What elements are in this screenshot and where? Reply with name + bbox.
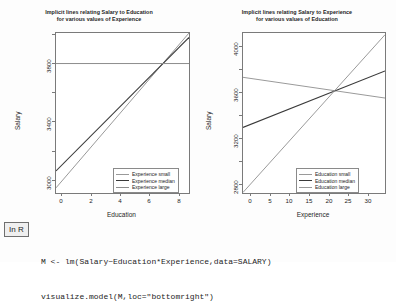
- series-line-experience-median: [56, 37, 189, 171]
- y-tick-label-right-3: 4000: [232, 42, 239, 56]
- x-tick-label-right-2: 10: [286, 197, 293, 204]
- series-line-education-small: [243, 77, 385, 98]
- y-tick-label-right-2: 3600: [232, 88, 239, 102]
- series-line-education-median: [243, 71, 385, 127]
- x-tick-label-left-0: 0: [59, 197, 62, 204]
- chart-title-left-line1: Implicit lines relating Salary to Educat…: [0, 9, 198, 16]
- x-tick-label-left-4: 8: [177, 197, 180, 204]
- y-tick-label-left-0: 3000: [45, 176, 52, 190]
- x-tick-label-left-3: 6: [147, 197, 150, 204]
- legend-item-experience-small: Experience small: [116, 171, 175, 177]
- legend-swatch-icon-5: [299, 187, 312, 188]
- x-tick-label-left-1: 2: [89, 197, 92, 204]
- legend-label-1: Experience median: [132, 178, 175, 184]
- y-tick-label-right-0: 2800: [232, 180, 239, 194]
- code-block: M <- lm(Salary~Education*Experience,data…: [41, 233, 271, 305]
- legend-label-5: Education large: [315, 184, 350, 190]
- legend-swatch-icon-1: [116, 180, 129, 181]
- chart-title-right: Implicit lines relating Salary to Experi…: [198, 9, 396, 23]
- chart-title-left-line2: for various values of Experience: [0, 16, 198, 23]
- y-axis-label-right: Salary: [205, 112, 212, 130]
- legend-swatch-icon-4: [299, 180, 312, 181]
- y-axis-label-left: Salary: [14, 112, 21, 130]
- legend-swatch-icon-0: [116, 174, 129, 175]
- legend-item-education-small: Education small: [299, 171, 355, 177]
- chart-title-right-line2: for various values of Education: [198, 16, 396, 23]
- chart-title-left: Implicit lines relating Salary to Educat…: [0, 9, 198, 23]
- legend-label-3: Education small: [315, 171, 350, 177]
- y-tick-label-right-1: 3200: [232, 134, 239, 148]
- x-axis-label-right: Experience: [242, 211, 384, 218]
- code-line-0: M <- lm(Salary~Education*Experience,data…: [41, 256, 271, 268]
- legend-item-education-median: Education median: [299, 178, 355, 184]
- legend-label-2: Experience large: [132, 184, 170, 190]
- y-tick-label-left-2: 3800: [45, 59, 52, 73]
- x-tick-label-right-5: 25: [345, 197, 352, 204]
- legend-item-experience-large: Experience large: [116, 184, 175, 190]
- chart-panel-education: Implicit lines relating Salary to Educat…: [0, 0, 198, 228]
- legend-label-0: Experience small: [132, 171, 170, 177]
- chart-title-right-line1: Implicit lines relating Salary to Experi…: [198, 9, 396, 16]
- legend-right: Education small Education median Educati…: [296, 168, 359, 193]
- x-tick-label-right-4: 20: [326, 197, 333, 204]
- x-tick-label-right-3: 15: [306, 197, 313, 204]
- legend-left: Experience small Experience median Exper…: [113, 168, 179, 193]
- x-tick-label-right-1: 5: [268, 197, 271, 204]
- x-tick-label-right-6: 30: [365, 197, 372, 204]
- legend-item-experience-median: Experience median: [116, 178, 175, 184]
- code-line-1: visualize.model(M,loc="bottomright"): [41, 291, 271, 303]
- legend-label-4: Education median: [315, 178, 355, 184]
- x-axis-label-left: Education: [55, 211, 188, 218]
- legend-item-education-large: Education large: [299, 184, 355, 190]
- x-tick-label-right-0: 0: [248, 197, 251, 204]
- y-tick-label-left-1: 3400: [45, 117, 52, 131]
- legend-swatch-icon-2: [116, 187, 129, 188]
- in-r-badge: In R: [4, 222, 29, 237]
- x-tick-label-left-2: 4: [118, 197, 121, 204]
- legend-swatch-icon-3: [299, 174, 312, 175]
- series-line-experience-small: [56, 33, 189, 188]
